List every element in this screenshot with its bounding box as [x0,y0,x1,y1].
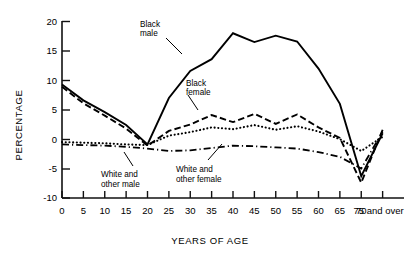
x-tick-label: 75 and over [354,205,404,216]
x-axis-ticks [62,191,383,198]
annotation-white-other-female: White and other female [176,165,222,184]
x-tick-label: 10 [99,205,110,216]
y-tick-label: 20 [46,16,57,27]
y-tick-label: 0 [52,134,57,145]
x-tick-label: 45 [249,205,260,216]
y-tick-label: 10 [46,75,57,86]
x-tick-label: 50 [270,205,281,216]
y-tick-label: 15 [46,45,57,56]
annotation-black-female: Black female [186,79,211,97]
x-tick-label: 25 [164,205,175,216]
x-tick-label: 0 [59,205,64,216]
y-axis-title: PERCENTAGE [13,90,24,161]
x-tick-label: 20 [142,205,153,216]
x-tick-label: 30 [185,205,196,216]
x-axis-tick-labels: 051015202530354045505560657075 and over [59,205,403,216]
x-tick-label: 40 [228,205,239,216]
y-axis-tick-labels: 20 15 10 5 0 -5 -10 [43,16,57,204]
y-tick-label: -5 [49,163,57,174]
annotation-label-line2: male [140,29,158,38]
y-tick-label: -10 [43,192,57,203]
annotation-label-line1: White and [176,165,213,174]
y-axis-ticks [62,22,70,199]
y-tick-label: 5 [52,104,57,115]
leader-black-female [188,95,198,110]
annotation-label-line2: female [186,88,211,97]
chart-figure: PERCENTAGE 20 15 10 5 0 -5 -10 051015202… [0,0,412,254]
annotation-white-other-male: White and other male [101,170,140,189]
x-tick-label: 60 [313,205,324,216]
x-tick-label: 65 [335,205,346,216]
annotation-label-line1: Black [140,20,161,29]
series-line-black-female [62,87,383,183]
annotation-black-male: Black male [140,20,161,38]
leader-white-other-male [124,152,133,166]
chart-svg: PERCENTAGE 20 15 10 5 0 -5 -10 051015202… [0,0,412,254]
annotation-label-line2: other male [101,180,140,189]
x-axis-title: YEARS OF AGE [171,235,248,246]
x-tick-label: 15 [121,205,132,216]
x-tick-label: 5 [81,205,86,216]
x-tick-label: 35 [206,205,217,216]
annotation-label-line1: Black [186,79,207,88]
x-tick-label: 55 [292,205,303,216]
annotation-label-line1: White and [101,170,138,179]
leader-white-other-female [208,144,222,160]
annotation-label-line2: other female [176,175,222,184]
leader-black-male [166,38,182,54]
